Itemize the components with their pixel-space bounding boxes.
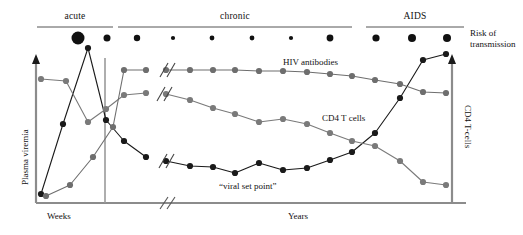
data-point: [232, 111, 238, 117]
data-point: [63, 78, 69, 84]
data-point: [85, 45, 91, 51]
data-point: [103, 117, 109, 123]
data-point: [256, 68, 262, 74]
series-line: [166, 94, 446, 185]
data-point: [103, 106, 109, 112]
data-point: [420, 57, 426, 63]
data-point: [443, 51, 449, 57]
phase-label-aids-text: AIDS: [404, 11, 427, 21]
transmission-risk-dot: [327, 35, 334, 42]
curve-break-marks: [157, 63, 175, 168]
data-point: [210, 105, 216, 111]
data-point: [420, 179, 426, 185]
data-point: [256, 160, 262, 166]
x-axis-label-years: Years: [288, 211, 308, 221]
risk-of-transmission-label: Risk of transmission: [470, 28, 516, 50]
data-point: [420, 89, 426, 95]
data-point: [372, 77, 378, 83]
hiv-infection-course-figure: acute chronic AIDS Risk of transmission …: [0, 0, 523, 235]
data-point: [210, 164, 216, 170]
curve-label-cd4-t-cells-text: CD4 T cells: [322, 113, 365, 123]
data-series-layer: [38, 45, 449, 199]
phase-label-chronic: chronic: [118, 11, 352, 21]
data-point: [327, 130, 333, 136]
phase-label-aids: AIDS: [366, 11, 464, 21]
risk-label-line1: Risk of: [470, 28, 516, 39]
y-axis-label-plasma-viremia: Plasma viremia: [20, 129, 30, 185]
data-point: [372, 130, 378, 136]
data-point: [187, 97, 193, 103]
x-axis-weeks-text: Weeks: [47, 211, 71, 221]
data-point: [256, 119, 262, 125]
transmission-risk-dot: [443, 34, 451, 42]
curve-label-hiv-antibodies-text: HIV antibodies: [283, 57, 338, 67]
data-point: [187, 67, 193, 73]
phase-label-acute-text: acute: [64, 11, 85, 21]
data-point: [43, 193, 49, 199]
transmission-risk-dot: [134, 35, 140, 41]
data-point: [85, 119, 91, 125]
curve-label-viral-set-point: “viral set point”: [219, 181, 276, 191]
x-axis-years-text: Years: [288, 211, 308, 221]
data-point: [327, 157, 333, 163]
data-point: [304, 69, 310, 75]
data-point: [397, 158, 403, 164]
y2-axis-label-cd4-t-cells: CD4 T-cells: [463, 105, 473, 148]
data-point: [121, 92, 127, 98]
series-line: [41, 79, 146, 122]
data-point: [349, 149, 355, 155]
series-plasma-viremia: [38, 45, 449, 197]
curve-label-cd4-t-cells: CD4 T cells: [322, 113, 365, 123]
x-axis-label-weeks: Weeks: [47, 211, 71, 221]
curve-label-hiv-antibodies: HIV antibodies: [283, 57, 338, 67]
data-point: [372, 143, 378, 149]
data-point: [280, 68, 286, 74]
transmission-risk-dot: [171, 36, 175, 40]
data-point: [280, 116, 286, 122]
data-point: [304, 121, 310, 127]
data-point: [232, 67, 238, 73]
data-point: [90, 154, 96, 160]
data-point: [67, 182, 73, 188]
transmission-risk-dot: [210, 36, 215, 41]
data-point: [304, 165, 310, 171]
data-point: [232, 170, 238, 176]
data-point: [327, 71, 333, 77]
data-point: [143, 67, 149, 73]
phase-label-chronic-text: chronic: [220, 11, 250, 21]
y2-axis-label-text: CD4 T-cells: [463, 105, 473, 148]
data-point: [110, 124, 116, 130]
transmission-risk-dot: [372, 34, 379, 41]
figure-canvas: [0, 0, 523, 235]
data-point: [210, 67, 216, 73]
data-point: [443, 90, 449, 96]
data-point: [60, 121, 66, 127]
data-point: [349, 138, 355, 144]
data-point: [121, 138, 127, 144]
data-point: [280, 167, 286, 173]
data-point: [397, 81, 403, 87]
curve-label-viral-set-point-text: “viral set point”: [219, 181, 276, 191]
transmission-risk-dot: [289, 36, 293, 40]
transmission-risk-dot-row: [72, 32, 452, 45]
series-line: [46, 70, 146, 196]
transmission-risk-dot: [250, 36, 255, 41]
data-point: [38, 76, 44, 82]
data-point: [397, 95, 403, 101]
y-axis-label-text: Plasma viremia: [20, 129, 30, 185]
data-point: [443, 182, 449, 188]
risk-label-line2: transmission: [470, 39, 516, 50]
data-point: [187, 163, 193, 169]
data-point: [349, 73, 355, 79]
transmission-risk-dot: [408, 34, 416, 42]
phase-label-acute: acute: [37, 11, 113, 21]
transmission-risk-dot: [104, 35, 111, 42]
series-hiv-antibodies: [43, 67, 449, 199]
data-point: [143, 154, 149, 160]
transmission-risk-dot: [72, 32, 85, 45]
data-point: [143, 90, 149, 96]
data-point: [121, 67, 127, 73]
